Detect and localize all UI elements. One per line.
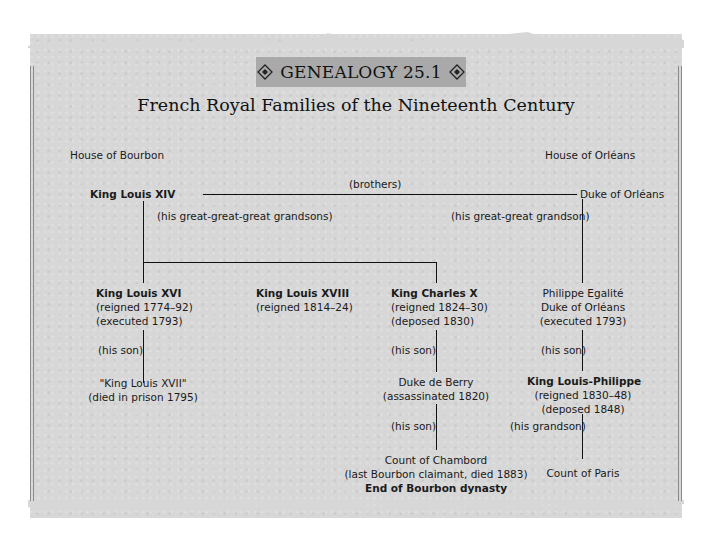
relation-son: (his son) [391,419,436,433]
person-chambord: Count of Chambord (last Bourbon claimant… [336,453,536,495]
person-detail: Duke of Orléans [531,300,635,314]
person-detail: (assassinated 1820) [376,389,496,403]
person-detail: (last Bourbon claimant, died 1883) [336,467,536,481]
person-name: "King Louis XVII" [66,376,220,390]
relation-brothers: (brothers) [349,177,401,191]
person-name: Count of Chambord [336,453,536,467]
diamond-ornament-icon [257,64,273,80]
person-detail: (reigned 1830–48) [527,388,639,402]
person-name: King Louis-Philippe [527,374,639,388]
relation-grandson: (his grandson) [510,419,586,433]
person-detail: (executed 1793) [96,314,193,328]
person-detail: (deposed 1830) [391,314,488,328]
louis14-descent-line [143,201,144,283]
person-louis-philippe: King Louis-Philippe (reigned 1830–48) (d… [527,374,639,416]
diamond-ornament-icon [449,64,465,80]
person-berry: Duke de Berry (assassinated 1820) [376,375,496,403]
relation-great-great-grandson: (his great-great grandson) [451,209,590,223]
left-border [30,66,34,501]
person-louis16: King Louis XVI (reigned 1774–92) (execut… [96,286,193,328]
end-of-dynasty-note: End of Bourbon dynasty [336,481,536,495]
person-name: King Louis XVI [96,286,193,300]
relation-great-great-great-grandsons: (his great-great-great grandsons) [157,209,333,223]
person-louis14: King Louis XIV [90,187,175,201]
person-egalite: Philippe Egalité Duke of Orléans (execut… [531,286,635,328]
right-border [678,66,682,501]
brothers-connector [203,194,577,195]
house-bourbon-label: House of Bourbon [70,148,164,162]
person-detail: (deposed 1848) [527,402,639,416]
person-detail: (executed 1793) [531,314,635,328]
person-detail: (reigned 1774–92) [96,300,193,314]
charles10-drop-line [436,262,437,283]
charles10-son-line [436,330,437,372]
grandsons-branch-line [143,262,437,263]
person-detail: (reigned 1824–30) [391,300,488,314]
relation-son: (his son) [541,343,586,357]
banner-label: GENEALOGY 25.1 [280,62,441,82]
relation-son: (his son) [98,343,143,357]
person-name: King Louis XVIII [256,286,353,300]
person-detail: (died in prison 1795) [66,390,220,404]
torn-bottom-edge [28,500,684,522]
person-count-paris: Count of Paris [533,466,633,480]
person-name: Philippe Egalité [531,286,635,300]
person-name: King Charles X [391,286,488,300]
diagram-title: French Royal Families of the Nineteenth … [0,95,712,115]
genealogy-banner: GENEALOGY 25.1 [256,57,466,87]
person-charles10: King Charles X (reigned 1824–30) (depose… [391,286,488,328]
house-orleans-label: House of Orléans [545,148,635,162]
torn-top-edge [28,24,684,48]
person-name: Duke de Berry [376,375,496,389]
person-louis18: King Louis XVIII (reigned 1814–24) [256,286,353,314]
person-duke-orleans: Duke of Orléans [580,187,664,201]
berry-son-line [436,404,437,450]
relation-son: (his son) [391,343,436,357]
person-louis17: "King Louis XVII" (died in prison 1795) [66,376,220,404]
person-detail: (reigned 1814–24) [256,300,353,314]
